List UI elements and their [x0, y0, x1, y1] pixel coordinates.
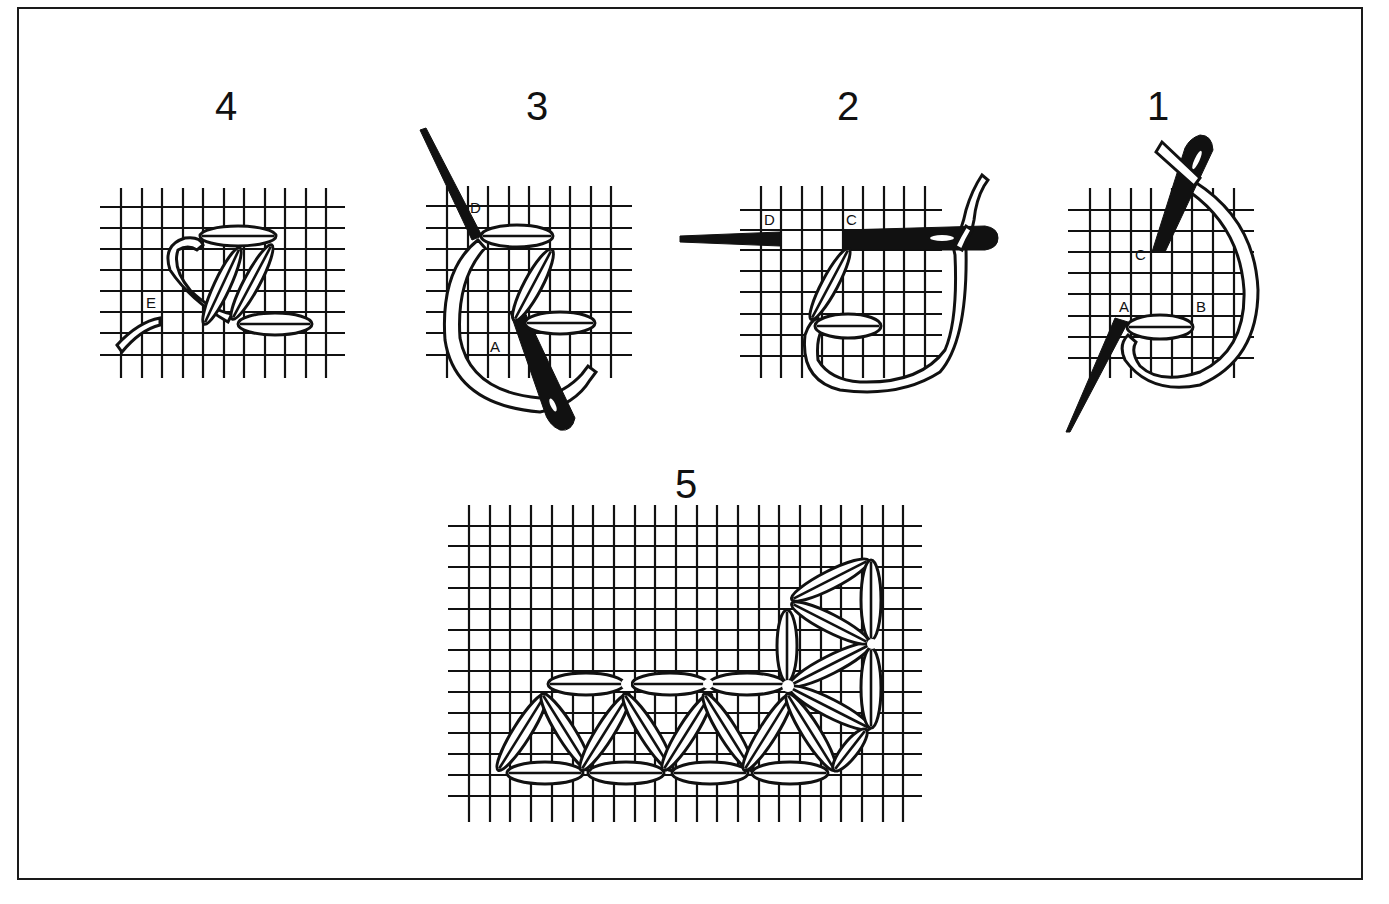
stitch-bottom [238, 313, 312, 335]
panel-2-number: 2 [837, 84, 859, 128]
stitch-right-vertical [861, 560, 881, 640]
stitch-top [200, 226, 276, 246]
panel-3: 3 D A [420, 84, 632, 430]
stitch-top [481, 225, 553, 247]
panel-4: 4 E [100, 84, 345, 378]
stitch-h-top-2 [632, 673, 708, 695]
stitch-h-top-1 [548, 673, 624, 695]
thread-loop [1122, 182, 1258, 387]
stitch-right-vertical [861, 648, 881, 728]
thread [117, 318, 160, 352]
point-label-A: A [490, 338, 500, 355]
stitch-h-bot-2 [588, 762, 664, 784]
needle-icon-right [843, 226, 998, 250]
stitch-h-top-3 [709, 673, 785, 695]
stitch-bottom [1127, 315, 1193, 339]
panel-1-number: 1 [1147, 84, 1169, 128]
panel-5-number: 5 [675, 462, 697, 506]
point-label-D: D [764, 211, 775, 228]
stitch-h-bot-3 [672, 762, 748, 784]
stitch-bottom [815, 314, 881, 338]
hole [703, 679, 713, 689]
point-label-C: C [846, 211, 857, 228]
point-label-C: C [1135, 246, 1146, 263]
panel-1: 1 C A B [1066, 84, 1258, 432]
needle-icon-left [680, 232, 780, 246]
point-label-E: E [146, 294, 156, 311]
needle-icon-lower [1066, 318, 1128, 432]
point-label-D: D [470, 199, 481, 216]
point-label-A: A [1119, 298, 1129, 315]
stitch-diag [804, 245, 856, 323]
hole [621, 679, 631, 689]
stitch-h-bot-1 [507, 762, 583, 784]
needle-icon [420, 128, 482, 240]
panel-3-number: 3 [526, 84, 548, 128]
stitch-diagram: 4 E [0, 0, 1389, 904]
panel-2: 2 D C [680, 84, 998, 392]
point-label-B: B [1196, 298, 1206, 315]
hole [867, 639, 877, 649]
panel-4-number: 4 [215, 84, 237, 128]
panel-5: 5 [448, 462, 922, 822]
stitch-h-bot-4 [752, 762, 828, 784]
hole [782, 680, 794, 692]
stitch-fan-vertical [777, 610, 797, 682]
stitch-bottom [525, 312, 595, 334]
